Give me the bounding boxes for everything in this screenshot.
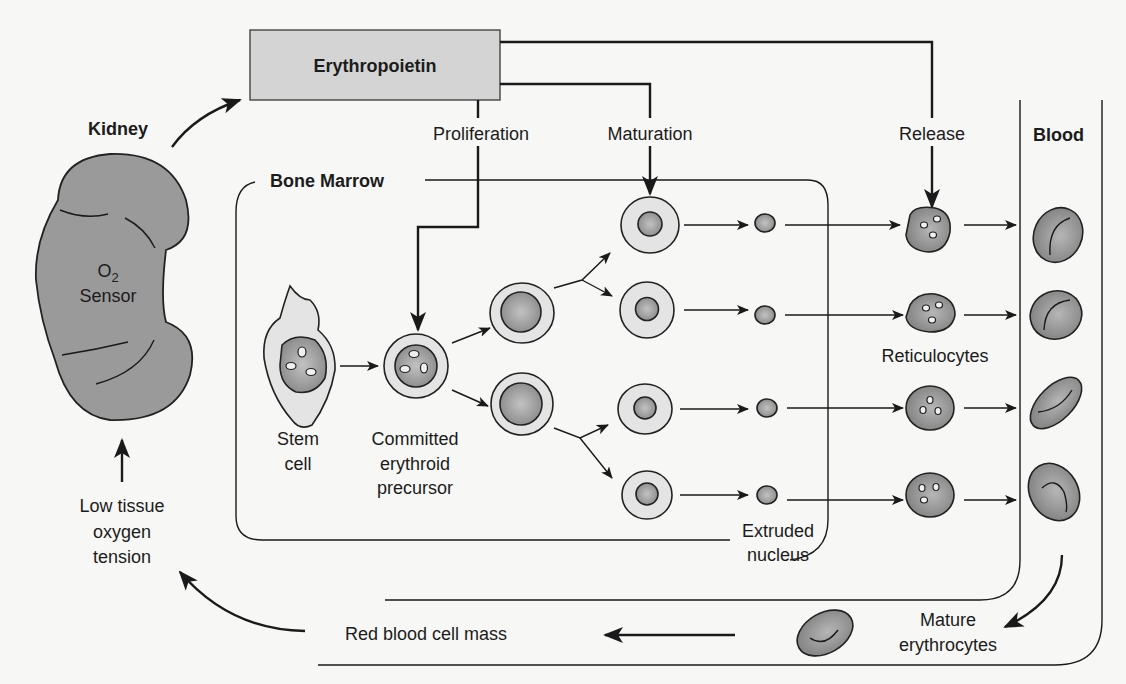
normoblast-row-3	[618, 384, 672, 434]
erythropoiesis-diagram: Blood Bone Marrow Erythropoietin Release…	[0, 0, 1126, 684]
kidney-label: Kidney	[88, 119, 148, 139]
reticulocyte-2	[906, 294, 955, 332]
reticulocyte-1	[906, 207, 950, 252]
low-oxygen-label: Low tissue oxygen tension	[79, 496, 164, 567]
erythrocyte-1	[1024, 199, 1091, 270]
svg-text:precursor: precursor	[377, 478, 453, 498]
precursor-to-lower-arrow	[452, 390, 488, 406]
branch-arrow-2b	[580, 438, 612, 478]
blood-erythrocytes	[1018, 199, 1091, 530]
reticulocyte-4	[906, 473, 954, 517]
maturation-label: Maturation	[607, 124, 692, 144]
normoblast-row-4	[622, 471, 672, 519]
svg-text:tension: tension	[93, 547, 151, 567]
stem-cell: Stem cell	[264, 286, 335, 474]
blood-to-mature-arrow	[1005, 555, 1062, 627]
blood-label: Blood	[1033, 125, 1084, 145]
rbc-mass-label: Red blood cell mass	[345, 624, 507, 644]
branch-arrow-1b	[582, 280, 612, 296]
release-label: Release	[899, 124, 965, 144]
erythrocyte-2	[1023, 284, 1088, 347]
svg-text:Stem: Stem	[277, 429, 319, 449]
rbc-mass-to-low-oxygen-arrow	[180, 572, 305, 631]
svg-text:oxygen: oxygen	[93, 522, 151, 542]
mature-erythrocytes-label: Mature erythrocytes	[899, 610, 997, 655]
normoblast-row-2	[620, 282, 674, 338]
maturation-connector	[500, 84, 650, 118]
release-connector	[500, 42, 932, 118]
erythrocyte-4	[1018, 454, 1090, 530]
svg-text:erythrocytes: erythrocytes	[899, 635, 997, 655]
reticulocyte-3	[906, 386, 954, 430]
svg-text:nucleus: nucleus	[747, 545, 809, 565]
precursor-to-upper-arrow	[452, 328, 490, 343]
normoblast-row-1	[621, 197, 679, 253]
svg-text:Extruded: Extruded	[742, 521, 814, 541]
proliferation-label: Proliferation	[433, 124, 529, 144]
reticulocytes-label: Reticulocytes	[881, 346, 988, 366]
erythrocyte-3	[1021, 368, 1090, 437]
erythropoietin-label: Erythropoietin	[313, 56, 436, 76]
extruded-nuclei	[755, 214, 777, 504]
proerythroblast-upper	[490, 283, 554, 343]
mature-erythrocyte-cell	[789, 601, 861, 666]
extruded-nucleus-label: Extruded nucleus	[742, 521, 814, 565]
reticulocytes: Reticulocytes	[881, 207, 988, 517]
erythropoietin-box: Erythropoietin	[250, 30, 500, 100]
svg-text:Mature: Mature	[920, 610, 976, 630]
branch-arrow-2a	[554, 425, 608, 438]
svg-text:erythroid: erythroid	[380, 454, 450, 474]
committed-precursor-cell: Committed erythroid precursor	[371, 334, 458, 498]
svg-text:cell: cell	[284, 454, 311, 474]
kidney: Kidney O2 Sensor	[36, 119, 192, 420]
sensor-label: Sensor	[79, 286, 136, 306]
svg-text:Committed: Committed	[371, 429, 458, 449]
proliferation-arrow	[418, 146, 478, 330]
branch-arrow-1a	[554, 253, 610, 288]
kidney-to-epo-arrow	[172, 100, 240, 147]
svg-text:Low tissue: Low tissue	[79, 496, 164, 516]
proerythroblast-lower	[491, 373, 553, 435]
bone-marrow-label: Bone Marrow	[270, 171, 385, 191]
